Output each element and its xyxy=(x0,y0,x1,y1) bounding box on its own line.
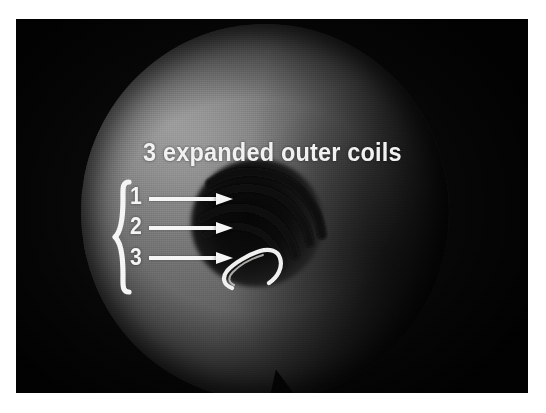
central-coil-mass xyxy=(191,159,323,287)
photographic-plate: 3 expanded outer coils 1 2 3 xyxy=(16,19,528,393)
figure-container: 3 expanded outer coils 1 2 3 xyxy=(0,0,546,413)
